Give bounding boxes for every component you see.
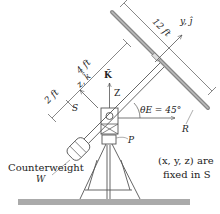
- counterweight: [65, 136, 92, 163]
- R-leader: [186, 110, 193, 124]
- collar: [102, 135, 116, 144]
- tracker-diagram: 12 ft 2 ft 4 ft y, ĵ z, k̂ K̂ Z θE = 45°…: [0, 0, 220, 214]
- pivot-block: [101, 108, 118, 134]
- P-leader: [116, 137, 128, 139]
- y-axis-label: y, ĵ: [179, 16, 194, 26]
- P-label: P: [127, 135, 135, 145]
- note-line-2: fixed in S: [163, 169, 211, 180]
- y-axis-arrow: [155, 35, 182, 62]
- dim-12ft-label: 12 ft: [151, 16, 173, 38]
- note-line-1: (x, y, z) are: [158, 155, 214, 166]
- R-label: R: [181, 124, 189, 134]
- dimension-12ft: [120, 0, 216, 95]
- dim-2ft-label: 2 ft: [42, 87, 61, 106]
- K-hat-label: K̂: [104, 69, 113, 80]
- angle-label: θE = 45°: [140, 105, 181, 115]
- Z-label: Z: [114, 88, 120, 98]
- counterweight-label: Counterweight: [8, 162, 84, 173]
- ground: [18, 199, 190, 205]
- z-axis-arrow: [80, 90, 98, 108]
- counterweight-symbol: W: [36, 174, 46, 184]
- tripod: [80, 144, 140, 199]
- frame-S-label: S: [72, 103, 78, 113]
